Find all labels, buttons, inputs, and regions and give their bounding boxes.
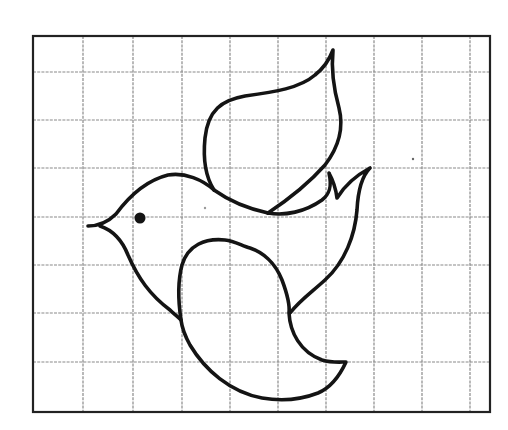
stray-speck [204,207,206,209]
grid-drawing [0,0,508,430]
bird-head-outline [88,174,268,226]
tail-outline [268,168,370,313]
bird-chest-outline [100,226,181,320]
upper-wing-outline [204,50,340,213]
bird-drawing [88,50,370,400]
lower-wing-outline [179,240,346,400]
stray-speck [412,158,414,160]
bird-eye [135,213,146,224]
